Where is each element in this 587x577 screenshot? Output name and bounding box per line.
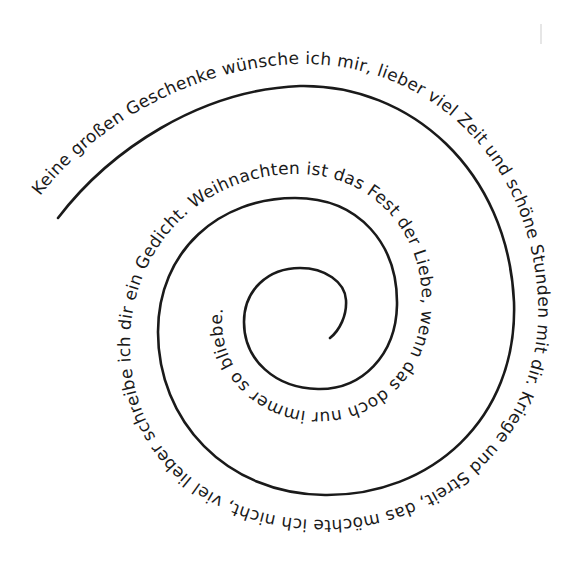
spiral-poem-text: Keine großen Geschenke wünsche ich mir, … bbox=[27, 48, 554, 536]
spiral-poem-figure: Keine großen Geschenke wünsche ich mir, … bbox=[0, 0, 587, 577]
poem-textpath: Keine großen Geschenke wünsche ich mir, … bbox=[27, 48, 554, 536]
scan-speck bbox=[540, 24, 542, 44]
